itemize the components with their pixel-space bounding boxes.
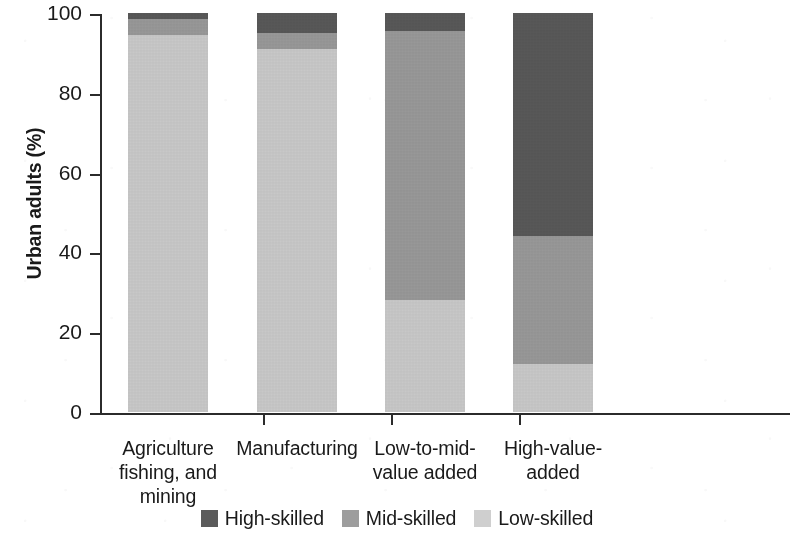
y-tick-label-20: 20	[59, 320, 82, 344]
x-category-label-line: mining	[83, 484, 253, 508]
bar-segment-high-skilled	[257, 13, 337, 33]
bar-segment-mid-skilled	[385, 31, 465, 300]
legend-label-low-skilled: Low-skilled	[498, 507, 593, 529]
y-tick-20: 20	[90, 333, 100, 335]
y-axis-line	[100, 14, 102, 414]
x-tick-2	[391, 414, 393, 425]
bar-segment-low-skilled	[385, 300, 465, 412]
bar-high-value-added[interactable]	[513, 13, 593, 412]
legend-swatch-low-skilled-icon	[474, 510, 491, 527]
legend-item-low-skilled[interactable]: Low-skilled	[474, 507, 593, 529]
y-tick-60: 60	[90, 174, 100, 176]
y-axis-title: Urban adults (%)	[23, 84, 46, 324]
y-tick-40: 40	[90, 253, 100, 255]
x-category-label-line: High-value-	[468, 436, 638, 460]
bar-segment-mid-skilled	[257, 33, 337, 49]
y-tick-0: 0	[90, 413, 100, 415]
bar-segment-low-skilled	[257, 49, 337, 412]
bar-segment-low-skilled	[128, 35, 208, 412]
legend-swatch-high-skilled-icon	[201, 510, 218, 527]
legend-item-high-skilled[interactable]: High-skilled	[201, 507, 324, 529]
bar-segment-high-skilled	[513, 13, 593, 236]
bar-segment-low-skilled	[513, 364, 593, 412]
legend-item-mid-skilled[interactable]: Mid-skilled	[342, 507, 456, 529]
x-tick-3	[519, 414, 521, 425]
y-tick-label-60: 60	[59, 161, 82, 185]
bar-low-to-mid-value-added[interactable]	[385, 13, 465, 412]
y-tick-label-100: 100	[47, 1, 82, 25]
y-tick-label-80: 80	[59, 81, 82, 105]
x-category-label-line: fishing, and	[83, 460, 253, 484]
y-tick-80: 80	[90, 94, 100, 96]
x-category-label-3: High-value-added	[468, 436, 638, 484]
legend-label-high-skilled: High-skilled	[225, 507, 324, 529]
x-tick-1	[263, 414, 265, 425]
bar-segment-mid-skilled	[513, 236, 593, 364]
y-tick-label-0: 0	[70, 400, 82, 424]
legend-swatch-mid-skilled-icon	[342, 510, 359, 527]
chart-legend: High-skilled Mid-skilled Low-skilled	[0, 507, 794, 529]
bar-manufacturing[interactable]	[257, 13, 337, 412]
x-axis-line	[100, 413, 790, 415]
stacked-bar-chart: Urban adults (%) 100 80 60 40 20 0	[0, 0, 794, 546]
bar-segment-high-skilled	[385, 13, 465, 31]
legend-label-mid-skilled: Mid-skilled	[366, 507, 456, 529]
plot-area: 100 80 60 40 20 0 Agriculturefishing, an…	[100, 14, 790, 413]
bar-segment-mid-skilled	[128, 19, 208, 35]
bar-agriculture-fishing-mining[interactable]	[128, 13, 208, 412]
x-category-label-line: added	[468, 460, 638, 484]
y-tick-100: 100	[90, 14, 100, 16]
y-tick-label-40: 40	[59, 240, 82, 264]
